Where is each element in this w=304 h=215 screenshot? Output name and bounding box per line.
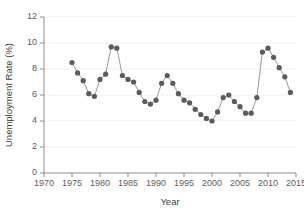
data-point	[148, 102, 153, 107]
x-tick-label: 2015	[286, 178, 304, 188]
x-tick-label: 1995	[174, 178, 194, 188]
data-point	[237, 104, 242, 109]
y-tick-label: 2	[32, 141, 37, 151]
y-axis	[40, 17, 44, 173]
data-point	[249, 111, 254, 116]
data-point	[254, 95, 259, 100]
data-point	[282, 74, 287, 79]
y-tick-label: 10	[27, 37, 37, 47]
x-axis	[44, 173, 296, 177]
x-tick-label: 2010	[258, 178, 278, 188]
data-point	[142, 99, 147, 104]
y-axis-title: Unemployment Rate (%)	[3, 43, 14, 147]
data-point	[271, 55, 276, 60]
data-point	[97, 77, 102, 82]
data-point	[187, 100, 192, 105]
data-point	[181, 98, 186, 103]
x-axis-title: Year	[160, 196, 179, 207]
data-point	[109, 44, 114, 49]
x-tick-label: 2000	[202, 178, 222, 188]
data-point	[153, 98, 158, 103]
chart-canvas: 024681012 197019751980198519901995200020…	[0, 0, 304, 215]
data-point	[288, 90, 293, 95]
x-tick-label: 1975	[62, 178, 82, 188]
data-point	[125, 77, 130, 82]
data-point	[69, 60, 74, 65]
data-point	[75, 70, 80, 75]
data-point	[277, 65, 282, 70]
data-point	[86, 91, 91, 96]
data-point	[131, 79, 136, 84]
x-tick-label: 1985	[118, 178, 138, 188]
x-tick-label: 1970	[34, 178, 54, 188]
data-point	[170, 81, 175, 86]
data-point	[265, 46, 270, 51]
data-point	[92, 94, 97, 99]
data-point	[226, 92, 231, 97]
data-point	[209, 118, 214, 123]
x-tick-label: 1980	[90, 178, 110, 188]
data-point-markers	[69, 44, 293, 123]
data-point	[204, 116, 209, 121]
y-tick-label: 0	[32, 167, 37, 177]
y-tick-label: 8	[32, 63, 37, 73]
data-point	[159, 81, 164, 86]
y-tick-labels: 024681012	[27, 11, 37, 177]
data-point	[176, 91, 181, 96]
data-point	[120, 73, 125, 78]
data-point	[260, 50, 265, 55]
data-point	[232, 99, 237, 104]
y-tick-label: 4	[32, 115, 37, 125]
y-tick-label: 6	[32, 89, 37, 99]
data-point	[198, 112, 203, 117]
unemployment-rate-chart: 024681012 197019751980198519901995200020…	[0, 0, 304, 215]
data-point	[165, 73, 170, 78]
x-tick-labels: 1970197519801985199019952000200520102015	[34, 178, 304, 188]
x-tick-label: 2005	[230, 178, 250, 188]
data-point	[103, 72, 108, 77]
data-point	[137, 90, 142, 95]
data-point	[114, 46, 119, 51]
y-tick-label: 12	[27, 11, 37, 21]
data-point	[243, 111, 248, 116]
data-point	[81, 78, 86, 83]
data-point	[193, 107, 198, 112]
data-point	[215, 109, 220, 114]
x-tick-label: 1990	[146, 178, 166, 188]
data-point	[221, 95, 226, 100]
series-line-unemployment-rate	[72, 47, 290, 121]
